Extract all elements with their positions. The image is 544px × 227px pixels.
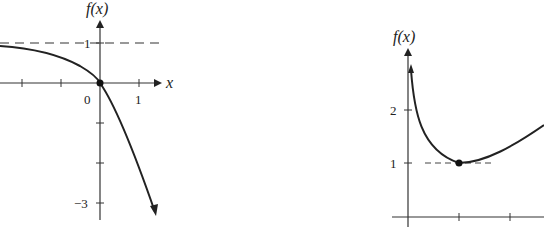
right-tick-1: 1 — [390, 156, 397, 171]
left-tick-1x: 1 — [135, 92, 142, 107]
figure: f(x) x 1 0 1 −3 f(x) 2 1 — [0, 0, 544, 227]
left-chart: f(x) x 1 0 1 −3 — [0, 0, 173, 220]
right-tick-2: 2 — [390, 103, 397, 118]
left-xlabel: x — [165, 74, 173, 91]
right-point — [456, 160, 463, 167]
left-tick-0: 0 — [84, 92, 91, 107]
left-tick-m3: −3 — [74, 196, 88, 211]
left-tick-1y: 1 — [84, 36, 91, 51]
left-ylabel: f(x) — [86, 0, 108, 18]
right-chart: f(x) 2 1 — [390, 28, 544, 227]
left-point — [97, 80, 104, 87]
right-curve — [411, 70, 544, 163]
left-curve — [0, 46, 155, 212]
right-ylabel: f(x) — [393, 28, 415, 46]
